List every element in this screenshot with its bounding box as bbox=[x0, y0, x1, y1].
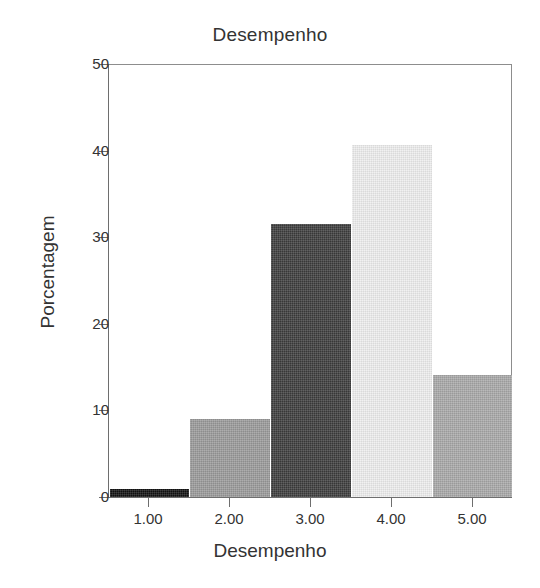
x-tick-label: 3.00 bbox=[270, 510, 350, 527]
x-tick-mark bbox=[310, 498, 311, 507]
chart-title: Desempenho bbox=[0, 24, 540, 46]
bar-4-00[interactable] bbox=[352, 145, 432, 497]
x-tick-mark bbox=[229, 498, 230, 507]
y-tick-label: 10 bbox=[65, 401, 109, 418]
x-tick-mark bbox=[391, 498, 392, 507]
x-tick-mark bbox=[148, 498, 149, 507]
y-tick-label: 0 bbox=[65, 488, 109, 505]
y-tick-label: 40 bbox=[65, 142, 109, 159]
x-tick-label: 5.00 bbox=[432, 510, 512, 527]
bar-1-00[interactable] bbox=[110, 489, 190, 497]
y-axis-title: Porcentagem bbox=[37, 172, 59, 372]
x-tick-label: 2.00 bbox=[189, 510, 269, 527]
y-tick-label: 50 bbox=[65, 55, 109, 72]
x-axis-title: Desempenho bbox=[0, 540, 540, 562]
y-tick-label: 20 bbox=[65, 315, 109, 332]
bars-layer bbox=[109, 64, 512, 497]
x-tick-mark bbox=[472, 498, 473, 507]
bar-5-00[interactable] bbox=[433, 375, 513, 497]
y-tick-label: 30 bbox=[65, 228, 109, 245]
x-tick-label: 4.00 bbox=[351, 510, 431, 527]
bar-2-00[interactable] bbox=[190, 419, 270, 497]
bar-chart-figure: Desempenho Porcentagem Desempenho 010203… bbox=[0, 0, 540, 588]
x-tick-label: 1.00 bbox=[108, 510, 188, 527]
bar-3-00[interactable] bbox=[271, 224, 351, 497]
